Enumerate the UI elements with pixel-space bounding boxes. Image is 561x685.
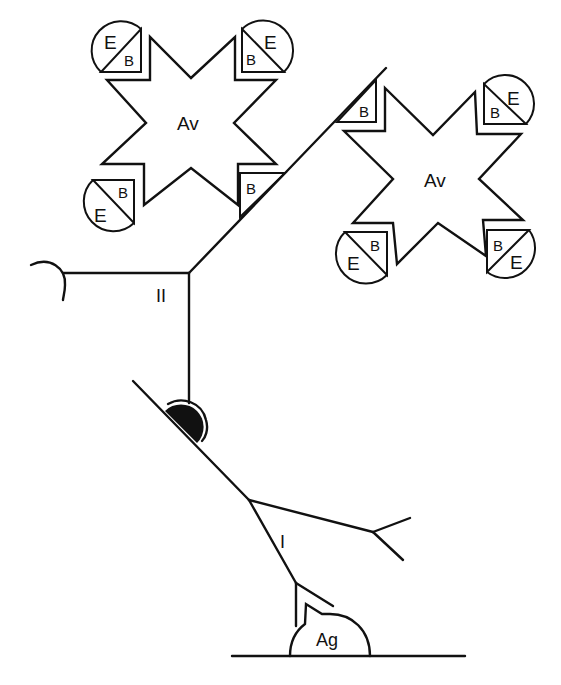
avidin-complex-2: Av B E B E B E B (336, 75, 535, 284)
biotin-enzyme-unit: E B (336, 232, 387, 284)
biotin-enzyme-unit: E B (84, 180, 134, 231)
biotin-enzyme-unit: E B (487, 230, 535, 278)
biotin-label: B (490, 104, 500, 121)
enzyme-label: E (507, 88, 520, 109)
enzyme-label: E (94, 205, 107, 226)
biotin-unit-bound: B (337, 80, 376, 122)
biotin-label: B (124, 52, 134, 69)
biotin-enzyme-unit: E B (484, 75, 534, 124)
enzyme-label: E (347, 253, 360, 274)
biotin-enzyme-unit: E B (242, 20, 293, 72)
enzyme-label: E (104, 32, 117, 53)
biotin-enzyme-unit: E B (92, 21, 141, 72)
biotin-label: B (359, 103, 369, 120)
avidin-complex-1: Av E B E B E B B (84, 20, 293, 231)
biotin-label: B (246, 180, 256, 197)
avidin-2-label: Av (424, 170, 446, 191)
antigen-label: Ag (316, 630, 338, 650)
primary-antibody-label: I (280, 532, 285, 552)
biotin-label: B (246, 51, 256, 68)
enzyme-label: E (264, 32, 277, 53)
avidin-1-label: Av (177, 113, 199, 134)
biotin-label: B (118, 184, 128, 201)
enzyme-label: E (510, 252, 523, 273)
biotin-label: B (493, 237, 503, 254)
antigen: Ag (290, 604, 370, 656)
abc-immunostaining-diagram: Ag I II Av E B (0, 0, 561, 685)
biotin-unit-bound: B (240, 173, 285, 217)
biotin-label: B (370, 237, 380, 254)
secondary-antibody-label: II (156, 286, 166, 306)
secondary-antibody: II (31, 68, 386, 403)
